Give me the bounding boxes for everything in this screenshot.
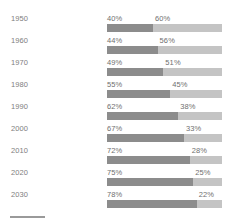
primary-value-label: 49% xyxy=(107,58,122,67)
stacked-bar xyxy=(107,68,222,76)
row-year-label: 1970 xyxy=(0,58,28,67)
stacked-bar-primary-segment xyxy=(107,200,197,208)
row-year-label: 1980 xyxy=(0,80,28,89)
chart-row: 202075%25% xyxy=(0,166,237,188)
secondary-value-label: 56% xyxy=(160,36,175,45)
chart-row: 199062%38% xyxy=(0,100,237,122)
row-value-labels: 55%45% xyxy=(107,80,222,89)
primary-value-label: 67% xyxy=(107,124,122,133)
secondary-value-label: 51% xyxy=(165,58,180,67)
row-year-label: 2020 xyxy=(0,168,28,177)
row-value-labels: 49%51% xyxy=(107,58,222,67)
row-year-label: 2030 xyxy=(0,190,28,199)
secondary-value-label: 22% xyxy=(199,190,214,199)
stacked-bar xyxy=(107,178,222,186)
row-year-label: 1950 xyxy=(0,14,28,23)
chart-row: 201072%28% xyxy=(0,144,237,166)
chart-row: 197049%51% xyxy=(0,56,237,78)
stacked-bar-chart: 195040%60%196044%56%197049%51%198055%45%… xyxy=(0,0,237,224)
row-year-label: 2000 xyxy=(0,124,28,133)
primary-value-label: 75% xyxy=(107,168,122,177)
stacked-bar-primary-segment xyxy=(107,68,163,76)
row-value-labels: 44%56% xyxy=(107,36,222,45)
row-year-label: 1960 xyxy=(0,36,28,45)
stacked-bar-primary-segment xyxy=(107,90,170,98)
stacked-bar-primary-segment xyxy=(107,112,178,120)
row-value-labels: 67%33% xyxy=(107,124,222,133)
stacked-bar-primary-segment xyxy=(107,178,193,186)
secondary-value-label: 60% xyxy=(155,14,170,23)
row-value-labels: 40%60% xyxy=(107,14,222,23)
row-value-labels: 62%38% xyxy=(107,102,222,111)
stacked-bar xyxy=(107,90,222,98)
secondary-value-label: 25% xyxy=(195,168,210,177)
secondary-value-label: 28% xyxy=(192,146,207,155)
row-year-label: 1990 xyxy=(0,102,28,111)
row-year-label: 2010 xyxy=(0,146,28,155)
primary-value-label: 72% xyxy=(107,146,122,155)
chart-row: 195040%60% xyxy=(0,12,237,34)
stacked-bar xyxy=(107,46,222,54)
stacked-bar xyxy=(107,156,222,164)
row-value-labels: 78%22% xyxy=(107,190,222,199)
primary-value-label: 44% xyxy=(107,36,122,45)
secondary-value-label: 33% xyxy=(186,124,201,133)
chart-row: 203078%22% xyxy=(0,188,237,210)
stacked-bar-primary-segment xyxy=(107,24,153,32)
row-value-labels: 75%25% xyxy=(107,168,222,177)
secondary-value-label: 38% xyxy=(180,102,195,111)
secondary-value-label: 45% xyxy=(172,80,187,89)
chart-row: 196044%56% xyxy=(0,34,237,56)
primary-value-label: 78% xyxy=(107,190,122,199)
stacked-bar-primary-segment xyxy=(107,156,190,164)
footer-rule xyxy=(10,216,45,218)
chart-row: 200067%33% xyxy=(0,122,237,144)
chart-row: 198055%45% xyxy=(0,78,237,100)
primary-value-label: 62% xyxy=(107,102,122,111)
stacked-bar xyxy=(107,112,222,120)
primary-value-label: 55% xyxy=(107,80,122,89)
stacked-bar-primary-segment xyxy=(107,134,184,142)
stacked-bar xyxy=(107,134,222,142)
primary-value-label: 40% xyxy=(107,14,122,23)
stacked-bar-primary-segment xyxy=(107,46,158,54)
row-value-labels: 72%28% xyxy=(107,146,222,155)
stacked-bar xyxy=(107,200,222,208)
stacked-bar xyxy=(107,24,222,32)
